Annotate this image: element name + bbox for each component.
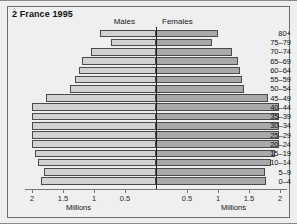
tick-label-left-2: 2 <box>30 194 34 203</box>
age-label-35-39: 35–39 <box>252 112 294 121</box>
bar-males-80+ <box>100 30 156 38</box>
legend-label-females: Females <box>156 17 193 26</box>
bar-males-70-74 <box>91 48 156 56</box>
bar-males-55-59 <box>75 76 156 84</box>
tick-label-right-1: 1 <box>216 194 220 203</box>
bar-males-75-79 <box>111 39 156 47</box>
age-label-20-24: 20–24 <box>252 140 294 149</box>
bar-females-60-64 <box>156 67 240 75</box>
center-axis-line <box>156 27 157 190</box>
bar-males-60-64 <box>79 67 157 75</box>
age-label-75-79: 75–79 <box>252 38 294 47</box>
bar-females-65-69 <box>156 57 238 65</box>
age-label-10-14: 10–14 <box>252 158 294 167</box>
bar-females-5-9 <box>156 168 265 176</box>
age-label-25-29: 25–29 <box>252 131 294 140</box>
bar-males-20-24 <box>32 140 156 148</box>
age-group-axis: 80+75–7970–7465–6960–6455–5950–5445–4940… <box>252 29 294 186</box>
bar-males-10-14 <box>38 159 156 167</box>
bar-females-70-74 <box>156 48 232 56</box>
age-label-15-19: 15–19 <box>252 149 294 158</box>
age-label-0-4: 0–4 <box>252 177 294 186</box>
tick-left-2 <box>32 189 33 193</box>
axis-unit-left: Millions <box>66 203 91 212</box>
axis-unit-right: Millions <box>221 203 246 212</box>
value-axis: 21.510.50.511.52MillionsMillions <box>0 189 297 219</box>
age-label-70-74: 70–74 <box>252 47 294 56</box>
age-label-80+: 80+ <box>252 29 294 38</box>
bar-females-80+ <box>156 30 218 38</box>
age-label-60-64: 60–64 <box>252 66 294 75</box>
age-label-45-49: 45–49 <box>252 94 294 103</box>
age-label-65-69: 65–69 <box>252 57 294 66</box>
tick-right-1 <box>218 189 219 193</box>
tick-label-right-2: 2 <box>278 194 282 203</box>
bar-females-55-59 <box>156 76 242 84</box>
bar-males-50-54 <box>70 85 156 93</box>
bar-males-0-4 <box>41 177 156 185</box>
age-label-30-34: 30–34 <box>252 121 294 130</box>
age-label-55-59: 55–59 <box>252 75 294 84</box>
bar-males-40-44 <box>32 103 156 111</box>
bar-males-35-39 <box>32 113 156 121</box>
tick-left-1 <box>94 189 95 193</box>
tick-label-left-0.5: 0.5 <box>120 194 130 203</box>
bar-males-25-29 <box>32 131 156 139</box>
tick-label-right-0.5: 0.5 <box>182 194 192 203</box>
bar-females-0-4 <box>156 177 266 185</box>
tick-label-left-1.5: 1.5 <box>58 194 68 203</box>
axis-rule <box>25 189 287 190</box>
tick-left-0.5 <box>125 189 126 193</box>
population-pyramid-figure: 2 France 1995 Males Females 80+75–7970–7… <box>0 0 297 224</box>
bar-males-5-9 <box>44 168 156 176</box>
tick-label-left-1: 1 <box>92 194 96 203</box>
bar-males-65-69 <box>82 57 156 65</box>
legend-label-males: Males <box>114 17 141 26</box>
bar-males-45-49 <box>46 94 156 102</box>
age-label-50-54: 50–54 <box>252 84 294 93</box>
bar-males-30-34 <box>32 122 156 130</box>
tick-right-0.5 <box>187 189 188 193</box>
bar-females-75-79 <box>156 39 212 47</box>
bar-females-50-54 <box>156 85 244 93</box>
tick-right-1.5 <box>249 189 250 193</box>
tick-right-2 <box>280 189 281 193</box>
bar-males-15-19 <box>35 150 156 158</box>
tick-label-right-1.5: 1.5 <box>244 194 254 203</box>
age-label-40-44: 40–44 <box>252 103 294 112</box>
tick-left-1.5 <box>63 189 64 193</box>
bar-females-45-49 <box>156 94 268 102</box>
age-label-5-9: 5–9 <box>252 168 294 177</box>
